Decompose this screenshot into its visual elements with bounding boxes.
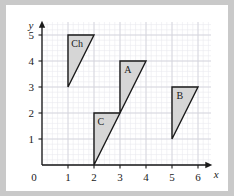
shape-label-c: C: [97, 116, 104, 127]
x-axis-arrowhead: [205, 162, 212, 168]
x-tick-label-6: 6: [195, 171, 201, 183]
x-tick-label-2: 2: [91, 171, 97, 183]
coordinate-plane-chart: 123456123450 xy ChABC: [6, 5, 228, 191]
y-axis-label: y: [28, 19, 34, 31]
plot-panel: 123456123450 xy ChABC: [6, 5, 228, 191]
y-tick-label-4: 4: [29, 55, 35, 67]
y-tick-label-1: 1: [29, 133, 35, 145]
y-axis-arrowhead: [39, 21, 45, 28]
x-tick-label-3: 3: [117, 171, 123, 183]
figure-root: 123456123450 xy ChABC: [0, 0, 234, 196]
y-tick-label-3: 3: [29, 81, 35, 93]
shape-label-ch: Ch: [71, 38, 83, 49]
origin-label: 0: [31, 171, 37, 183]
y-tick-label-5: 5: [29, 29, 35, 41]
x-axis-label: x: [213, 168, 219, 180]
x-tick-label-5: 5: [169, 171, 175, 183]
x-tick-label-4: 4: [143, 171, 149, 183]
x-tick-label-1: 1: [65, 171, 71, 183]
shape-label-a: A: [124, 64, 132, 75]
shape-label-b: B: [176, 90, 183, 101]
y-tick-label-2: 2: [29, 107, 35, 119]
